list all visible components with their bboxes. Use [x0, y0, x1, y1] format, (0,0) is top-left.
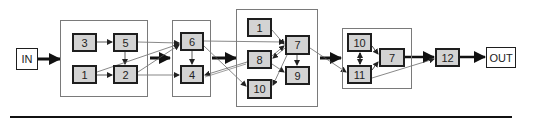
output-node: OUT — [486, 47, 516, 68]
node-g3-9: 9 — [285, 66, 310, 85]
node-g4-11: 11 — [347, 65, 372, 84]
node-g1-2: 2 — [113, 65, 138, 84]
node-g2-4: 4 — [180, 65, 204, 84]
node-g1-3: 3 — [72, 33, 97, 52]
group-1 — [60, 20, 148, 97]
node-g4-10: 10 — [347, 33, 372, 52]
node-g4-7: 7 — [379, 48, 405, 67]
flow-diagram: IN OUT 3 5 1 2 6 4 1 7 8 9 10 10 7 11 12 — [0, 0, 534, 119]
node-g3-7: 7 — [285, 35, 310, 55]
node-g2-6: 6 — [180, 32, 204, 51]
node-g1-1: 1 — [72, 65, 97, 84]
input-node: IN — [16, 48, 38, 70]
node-12: 12 — [435, 48, 460, 67]
bottom-rule — [10, 116, 512, 118]
node-g3-8: 8 — [247, 50, 272, 69]
node-g3-10: 10 — [247, 79, 272, 99]
node-g3-1: 1 — [247, 18, 272, 37]
node-g1-5: 5 — [113, 33, 138, 52]
